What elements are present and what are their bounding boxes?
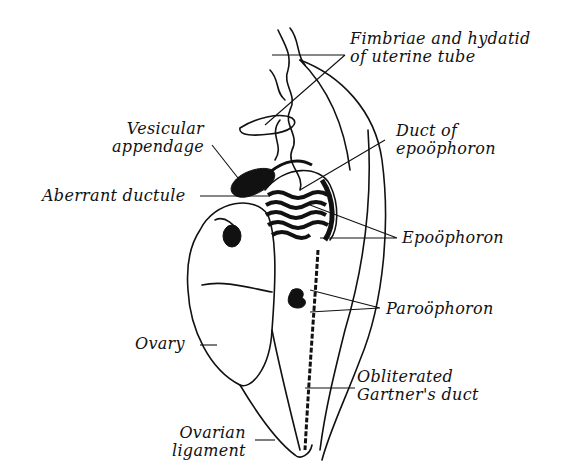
label-aberrant-ductule: Aberrant ductule <box>42 187 186 205</box>
label-vesicular-appendage: Vesicular appendage <box>112 120 204 156</box>
leader-paroophoron <box>310 290 380 312</box>
label-paroophoron: Paroöphoron <box>386 300 494 318</box>
ovarian-ligament <box>240 385 312 457</box>
label-ovary: Ovary <box>135 335 185 353</box>
label-epoophoron: Epoöphoron <box>402 229 504 247</box>
label-obliterated-gartners-duct: Obliterated Gartner's duct <box>357 368 479 404</box>
leader-vesicular <box>212 145 238 178</box>
gartner-duct <box>305 250 318 450</box>
leader-duct-epoophoron <box>300 140 385 190</box>
label-ovarian-ligament: Ovarian ligament <box>172 424 246 460</box>
hydatid <box>240 116 295 136</box>
anatomical-figure: Fimbriae and hydatid of uterine tube Ves… <box>0 0 571 470</box>
paroophoron <box>288 289 305 308</box>
label-fimbriae: Fimbriae and hydatid of uterine tube <box>350 30 531 66</box>
label-duct-of-epoophoron: Duct of epoöphoron <box>396 122 496 158</box>
